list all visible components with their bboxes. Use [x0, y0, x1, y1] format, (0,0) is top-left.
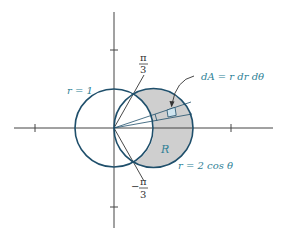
label-region-r: R: [160, 143, 169, 156]
label-angle-top-denominator: 3: [140, 64, 146, 75]
label-area-element: dA = r dr dθ: [201, 71, 264, 82]
ray-pi-over-3: [114, 75, 144, 128]
label-r-equals-1: r = 1: [67, 85, 93, 96]
label-angle-bottom-denominator: 3: [140, 189, 146, 200]
label-angle-top-numerator: π: [140, 52, 147, 63]
ray-neg-pi-over-3: [114, 128, 144, 181]
label-angle-bottom-sign: −: [131, 181, 139, 192]
label-angle-bottom-numerator: π: [140, 176, 147, 187]
label-r-equals-2cos: r = 2 cos θ: [178, 160, 233, 171]
polar-region-diagram: r = 1 dA = r dr dθ R r = 2 cos θ π 3 − π…: [0, 0, 282, 235]
